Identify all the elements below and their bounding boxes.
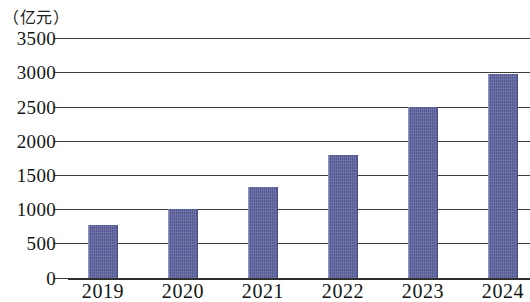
ytick-dash-2500 bbox=[54, 107, 68, 108]
gridline-3500 bbox=[68, 38, 530, 39]
bar-2021 bbox=[248, 187, 278, 278]
gridline-500 bbox=[68, 243, 530, 244]
xtick-label-2020: 2020 bbox=[140, 281, 226, 302]
ytick-label-2000: 2000 bbox=[0, 132, 56, 151]
ytick-label-1500: 1500 bbox=[0, 166, 56, 185]
bar-2023 bbox=[408, 107, 438, 278]
gridline-2500 bbox=[68, 107, 530, 108]
ytick-dash-1000 bbox=[54, 209, 68, 210]
bar-2020 bbox=[168, 209, 198, 278]
ytick-label-1000: 1000 bbox=[0, 200, 56, 219]
ytick-dash-1500 bbox=[54, 175, 68, 176]
ytick-dash-3500 bbox=[54, 38, 68, 39]
ytick-label-0: 0 bbox=[0, 269, 56, 288]
gridline-2000 bbox=[68, 141, 530, 142]
xtick-label-2021: 2021 bbox=[220, 281, 306, 302]
ytick-dash-3000 bbox=[54, 72, 68, 73]
ytick-dash-0 bbox=[54, 278, 68, 279]
x-axis-baseline bbox=[68, 278, 530, 280]
ytick-dash-500 bbox=[54, 243, 68, 244]
ytick-label-3000: 3000 bbox=[0, 63, 56, 82]
ytick-label-500: 500 bbox=[0, 234, 56, 253]
gridline-1000 bbox=[68, 209, 530, 210]
ytick-dash-2000 bbox=[54, 141, 68, 142]
gridline-3000 bbox=[68, 72, 530, 73]
bar-2019 bbox=[88, 225, 118, 278]
xtick-label-2019: 2019 bbox=[60, 281, 146, 302]
xtick-label-2022: 2022 bbox=[300, 281, 386, 302]
plot-area: 3500 3000 2500 2000 1500 1000 500 0 2019… bbox=[0, 0, 530, 302]
bar-2024 bbox=[488, 74, 518, 278]
ytick-label-2500: 2500 bbox=[0, 98, 56, 117]
xtick-label-2024: 2024 bbox=[460, 281, 530, 302]
bar-chart-figure: （亿元） 3500 3000 2500 2000 1500 1000 500 0 bbox=[0, 0, 530, 302]
gridline-1500 bbox=[68, 175, 530, 176]
xtick-label-2023: 2023 bbox=[380, 281, 466, 302]
bar-2022 bbox=[328, 155, 358, 278]
ytick-label-3500: 3500 bbox=[0, 29, 56, 48]
